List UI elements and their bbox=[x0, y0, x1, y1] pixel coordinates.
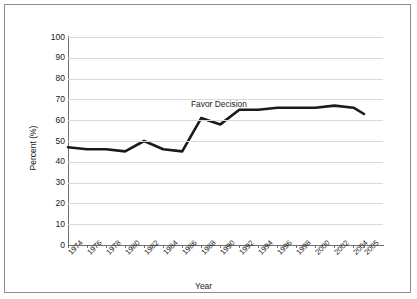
y-axis-tick-label: 70 bbox=[41, 95, 65, 104]
gridline bbox=[68, 141, 383, 142]
gridline bbox=[68, 58, 383, 59]
gridline bbox=[68, 162, 383, 163]
gridline bbox=[68, 224, 383, 225]
y-axis-tick-label: 90 bbox=[41, 53, 65, 62]
y-axis-tick-label: 30 bbox=[41, 178, 65, 187]
y-axis-tick-label: 20 bbox=[41, 199, 65, 208]
gridline bbox=[68, 203, 383, 204]
y-axis-tick-label: 10 bbox=[41, 220, 65, 229]
y-axis-title: Percent (%) bbox=[28, 108, 38, 188]
y-axis-tick-label: 60 bbox=[41, 116, 65, 125]
gridline bbox=[68, 120, 383, 121]
gridline bbox=[68, 183, 383, 184]
y-axis-tick-label: 40 bbox=[41, 157, 65, 166]
plot-area bbox=[68, 37, 383, 245]
gridline bbox=[68, 79, 383, 80]
y-axis-tick-label: 80 bbox=[41, 74, 65, 83]
annotation-favor-decision: Favor Decision bbox=[191, 99, 247, 109]
y-axis-tick-label: 0 bbox=[41, 241, 65, 250]
y-axis-title-wrapper: Percent (%) bbox=[19, 113, 33, 193]
series-favor-decision bbox=[68, 106, 364, 152]
y-axis-tick-label: 50 bbox=[41, 137, 65, 146]
y-axis-tick-labels: 1009080706050403020100 bbox=[35, 5, 65, 299]
y-axis-tick-label: 100 bbox=[41, 33, 65, 42]
gridline bbox=[68, 37, 383, 38]
x-axis-title: Year bbox=[195, 281, 212, 291]
chart-frame: 1009080706050403020100 Percent (%) Favor… bbox=[4, 4, 411, 293]
